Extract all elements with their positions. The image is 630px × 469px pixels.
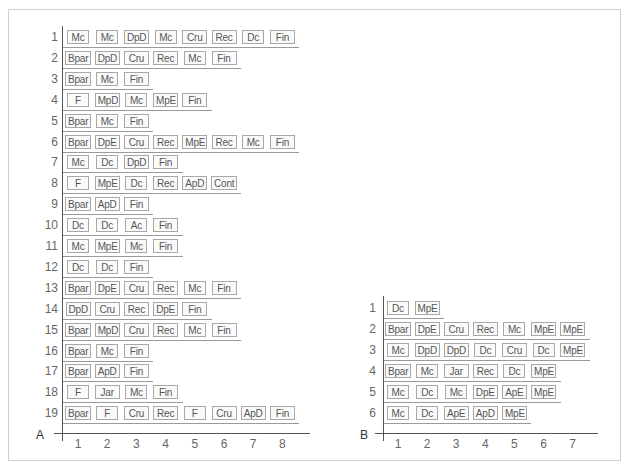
event-box: ApD	[95, 197, 120, 211]
event-box: Dc	[125, 176, 147, 190]
event-box: DpD	[124, 155, 149, 169]
event-box: Dc	[67, 218, 89, 232]
event-box: Bpar	[385, 364, 411, 378]
event-box: MpE	[95, 239, 120, 253]
event-box: Mc	[96, 344, 118, 358]
row-separator	[63, 47, 299, 48]
event-box: Mc	[387, 385, 409, 399]
event-box: Fin	[124, 197, 149, 211]
event-box: Fin	[153, 385, 178, 399]
row-separator	[384, 318, 444, 319]
row-separator	[384, 423, 531, 424]
event-box: DpD	[66, 302, 91, 316]
event-box: Cru	[182, 30, 207, 44]
event-box: Fin	[124, 114, 149, 128]
row-label: 5	[34, 114, 58, 128]
event-box: Mc	[67, 155, 89, 169]
event-box: Rec	[153, 323, 178, 337]
event-box: MpE	[531, 364, 556, 378]
row-label: 1	[352, 301, 376, 315]
event-box: Mc	[96, 72, 118, 86]
event-box: Dc	[503, 364, 525, 378]
row-label: 6	[352, 406, 376, 420]
row-separator	[63, 402, 183, 403]
event-box: DpE	[415, 322, 440, 336]
event-box: Fin	[182, 93, 207, 107]
event-box: Ac	[125, 218, 147, 232]
x-axis	[54, 433, 310, 434]
row-separator	[384, 402, 561, 403]
x-tick-label: 1	[68, 437, 88, 451]
event-box: Cru	[502, 343, 527, 357]
event-box: ApD	[95, 364, 120, 378]
x-tick-label: 7	[563, 437, 583, 451]
event-box: Mc	[387, 343, 409, 357]
event-box: MpE	[560, 343, 585, 357]
event-box: Bpar	[65, 51, 91, 65]
event-box: F	[67, 93, 89, 107]
event-box: Bpar	[65, 323, 91, 337]
event-box: Cru	[124, 135, 149, 149]
event-box: Fin	[212, 281, 237, 295]
event-box: Jar	[444, 364, 469, 378]
event-box: Cont	[211, 176, 237, 190]
row-label: 18	[34, 385, 58, 399]
panel-label: A	[36, 428, 44, 442]
x-tick-label: 2	[417, 437, 437, 451]
event-box: Bpar	[65, 364, 91, 378]
event-box: DpE	[153, 302, 178, 316]
row-separator	[63, 256, 183, 257]
row-separator	[63, 319, 212, 320]
event-box: Dc	[387, 301, 409, 315]
event-box: Cru	[124, 281, 149, 295]
event-box: Mc	[184, 323, 206, 337]
event-box: Cru	[95, 302, 120, 316]
event-box: Rec	[153, 135, 178, 149]
x-axis	[375, 433, 598, 434]
event-box: DpE	[95, 281, 120, 295]
row-separator	[63, 298, 241, 299]
event-box: DpD	[95, 51, 120, 65]
event-box: MpE	[415, 301, 440, 315]
event-box: Dc	[242, 30, 264, 44]
event-box: ApD	[241, 406, 266, 420]
event-box: Fin	[124, 344, 149, 358]
event-box: Mc	[416, 364, 438, 378]
event-box: Mc	[96, 30, 118, 44]
row-separator	[63, 193, 241, 194]
event-box: Dc	[474, 343, 496, 357]
event-box: Dc	[96, 218, 118, 232]
row-label: 5	[352, 385, 376, 399]
row-separator	[63, 152, 299, 153]
event-box: Bpar	[65, 344, 91, 358]
row-label: 3	[352, 343, 376, 357]
row-separator	[63, 277, 153, 278]
event-box: Bpar	[65, 281, 91, 295]
row-label: 7	[34, 155, 58, 169]
event-box: MpE	[502, 406, 527, 420]
event-box: MpD	[95, 93, 120, 107]
event-box: Bpar	[65, 114, 91, 128]
x-tick-label: 3	[446, 437, 466, 451]
event-box: F	[184, 406, 206, 420]
event-box: Fin	[182, 302, 207, 316]
row-separator	[63, 89, 153, 90]
x-tick-label: 6	[214, 437, 234, 451]
event-box: Rec	[153, 51, 178, 65]
event-box: DpD	[124, 30, 149, 44]
event-box: Mc	[125, 93, 147, 107]
row-label: 1	[34, 30, 58, 44]
row-label: 14	[34, 302, 58, 316]
event-box: Dc	[416, 385, 438, 399]
event-box: Mc	[387, 406, 409, 420]
event-box: Mc	[445, 385, 467, 399]
event-box: Mc	[184, 281, 206, 295]
event-box: Mc	[503, 322, 525, 336]
event-box: DpE	[473, 385, 498, 399]
event-box: Fin	[212, 323, 237, 337]
event-box: Dc	[96, 260, 118, 274]
event-box: F	[96, 406, 118, 420]
event-box: Fin	[270, 135, 295, 149]
event-box: F	[67, 176, 89, 190]
event-box: Mc	[67, 239, 89, 253]
